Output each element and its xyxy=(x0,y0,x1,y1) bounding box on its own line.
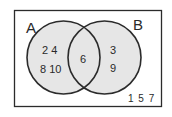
b-only-row1: 3 xyxy=(110,44,116,56)
venn-diagram: A B 2 4 8 10 6 3 9 1 5 7 xyxy=(0,0,172,117)
intersection-value: 6 xyxy=(80,53,86,65)
a-only-row2: 8 10 xyxy=(40,63,61,75)
outside-values: 1 5 7 xyxy=(128,93,155,104)
set-a-label: A xyxy=(26,19,36,36)
b-only-row2: 9 xyxy=(110,62,116,74)
set-b-label: B xyxy=(133,16,143,33)
a-only-row1: 2 4 xyxy=(42,44,57,56)
